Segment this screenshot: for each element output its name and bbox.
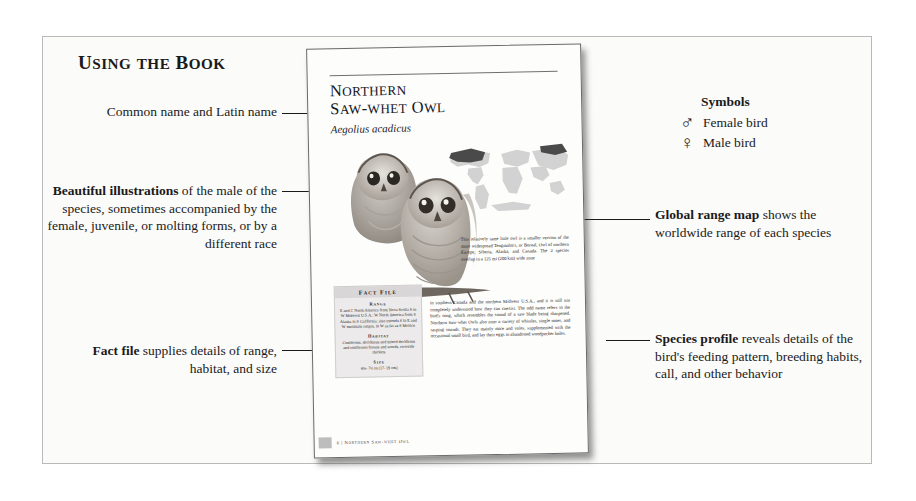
fact-file-body-range: E and C North America from Nova Scotia S…: [339, 307, 417, 330]
venus-symbol-icon: ♀: [679, 133, 695, 152]
annotation-fact-file-text: supplies details of range, habitat, and …: [139, 343, 277, 376]
symbol-label-male: Male bird: [703, 135, 756, 151]
symbol-row-female: ♂ Female bird: [679, 113, 869, 132]
annotation-range-map: Global range map shows the worldwide ran…: [655, 206, 870, 241]
fact-file-box: FACT FILE RANGE E and C North America fr…: [334, 285, 424, 379]
species-profile-text-1: his relatively tame little owl is a smal…: [461, 235, 569, 262]
leader-line-species-profile: [606, 340, 650, 341]
annotation-common-name-text: Common name and Latin name: [107, 104, 277, 119]
symbol-row-male: ♀ Male bird: [679, 133, 869, 152]
page-footer: 6 | NORTHERN SAW-WHET OWL: [337, 439, 410, 445]
annotation-illustrations-bold: Beautiful illustrations: [53, 183, 179, 198]
annotation-illustrations: Beautiful illustrations of the male of t…: [44, 182, 277, 252]
species-latin-name: Aegolius acadicus: [331, 122, 412, 136]
book-page-surface: NORTHERN SAW-WHET OWL Aegolius acadicus: [306, 43, 589, 458]
page-title-text: USING THE BOOK: [78, 52, 226, 73]
fact-file-title: FACT FILE: [335, 286, 421, 299]
annotation-species-profile-bold: Species profile: [655, 331, 738, 346]
species-profile-paragraph-1: This relatively tame little owl is a sma…: [461, 235, 569, 264]
fact-file-body-size: 6¾–7½ in (17–19 cm): [340, 364, 418, 371]
book-page: NORTHERN SAW-WHET OWL Aegolius acadicus: [306, 43, 589, 458]
symbols-legend-title: Symbols: [701, 94, 869, 110]
species-common-name: NORTHERN SAW-WHET OWL: [330, 78, 566, 118]
page-title: USING THE BOOK: [78, 52, 226, 74]
annotation-species-profile: Species profile reveals details of the b…: [655, 330, 880, 383]
species-name-line2: SAW-WHET OWL: [330, 96, 565, 118]
symbol-label-female: Female bird: [703, 115, 768, 131]
footer-marker: [319, 437, 332, 448]
annotation-range-map-bold: Global range map: [655, 207, 759, 222]
annotation-common-name: Common name and Latin name: [52, 103, 277, 121]
species-profile-paragraph-2: in southern Canada and the northern Midw…: [430, 298, 571, 341]
fact-file-body-habitat: Coniferous, deciduous and mixed deciduou…: [340, 338, 418, 356]
annotation-fact-file: Fact file supplies details of range, hab…: [62, 342, 277, 377]
mars-symbol-icon: ♂: [679, 113, 695, 132]
header-rule: [330, 71, 558, 76]
annotation-fact-file-bold: Fact file: [93, 343, 140, 358]
symbols-legend: Symbols ♂ Female bird ♀ Male bird: [679, 94, 869, 153]
